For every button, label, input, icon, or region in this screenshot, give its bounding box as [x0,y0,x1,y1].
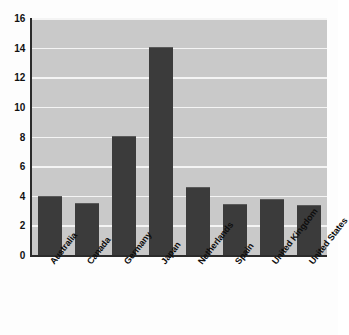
bar[interactable] [149,47,173,255]
x-label-slot: Canada [69,257,106,335]
bar-slot [106,18,143,255]
bar-slot [143,18,180,255]
x-label-slot: Germany [106,257,143,335]
x-label-slot: Japan [143,257,180,335]
x-label-slot: United States [290,257,327,335]
y-axis-tick-label: 12 [14,72,25,83]
bar-slot [32,18,69,255]
y-axis-tick-label: 10 [14,101,25,112]
bars-layer [32,18,327,255]
plot-area [32,18,327,255]
x-label-slot: Australia [32,257,69,335]
y-axis-tick-label: 0 [20,250,25,261]
bar-slot [253,18,290,255]
x-label-slot: Netherlands [180,257,217,335]
bar-slot [216,18,253,255]
x-axis-tick-labels: AustraliaCanadaGermanyJapanNetherlandsSp… [32,257,327,335]
y-axis: 0246810121416 [0,12,29,260]
y-axis-tick-label: 4 [20,190,25,201]
bar[interactable] [112,136,136,255]
x-label-slot: United Kingdom [253,257,290,335]
y-axis-tick-label: 2 [20,220,25,231]
y-axis-tick-label: 14 [14,42,25,53]
y-axis-tick-label: 16 [14,13,25,24]
x-label-slot: Spain [216,257,253,335]
bar-slot [69,18,106,255]
bar-slot [180,18,217,255]
y-axis-tick-label: 6 [20,161,25,172]
y-axis-tick-label: 8 [20,131,25,142]
